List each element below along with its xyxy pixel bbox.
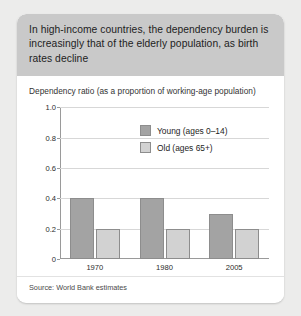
legend-item-young: Young (ages 0–14) [140,125,227,136]
chart-axis-description: Dependency ratio (as a proportion of wor… [29,86,274,96]
card-title: In high-income countries, the dependency… [29,23,272,66]
y-tick-mark [57,259,60,260]
bar-1980-young [140,198,164,259]
x-axis-tick-labels: 197019802005 [60,263,269,277]
y-tick-label: 1.0 [45,103,56,112]
bar-2005-old [235,229,259,259]
x-tick-label: 1980 [156,263,173,272]
y-tick-label: 0.4 [45,194,56,203]
page-background: In high-income countries, the dependency… [0,0,301,316]
x-tick-label: 1970 [86,263,103,272]
y-tick-label: 0 [52,255,56,264]
legend-label-old: Old (ages 65+) [157,143,213,153]
x-tick-label: 2005 [226,263,243,272]
chart-plot-wrapper: 00.20.40.60.81.0 197019802005 Young (age… [27,103,274,275]
bar-2005-young [209,214,233,260]
bar-1980-old [166,229,190,259]
chart-card: In high-income countries, the dependency… [17,14,284,303]
y-tick-label: 0.2 [45,224,56,233]
card-body: Dependency ratio (as a proportion of wor… [17,76,284,299]
bar-1970-old [96,229,120,259]
source-note: Source: World Bank estimates [29,283,127,292]
bar-1970-young [70,198,94,259]
card-header: In high-income countries, the dependency… [17,14,284,76]
legend-item-old: Old (ages 65+) [140,142,227,153]
legend-label-young: Young (ages 0–14) [157,126,227,136]
y-tick-label: 0.8 [45,133,56,142]
chart-legend: Young (ages 0–14) Old (ages 65+) [140,125,227,159]
source-divider [17,276,284,277]
y-tick-label: 0.6 [45,164,56,173]
legend-swatch-young-icon [140,125,151,136]
legend-swatch-old-icon [140,142,151,153]
